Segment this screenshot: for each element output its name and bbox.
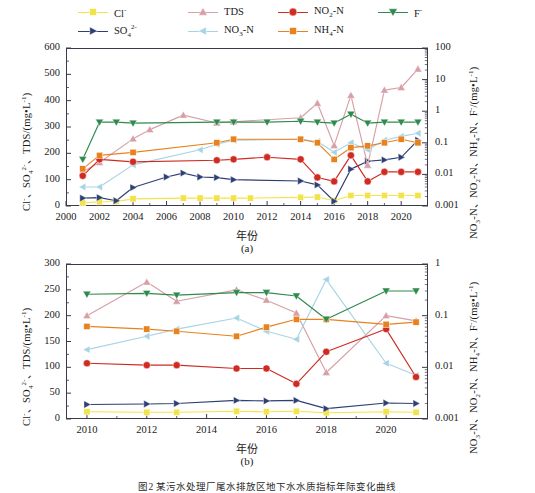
y-tick-label: 600 — [44, 41, 60, 52]
y-tick-label: 500 — [44, 67, 60, 78]
panel-a: Cl-、SO42-、TDS/(mg•L-1) NO3-N、NO2-N、NH4-N… — [0, 0, 535, 250]
x-tick-label: 2004 — [123, 211, 144, 222]
y2-tick-label: 1 — [435, 257, 440, 268]
y-tick-label: 200 — [44, 146, 60, 157]
y-tick-label: 0 — [55, 412, 60, 423]
x-tick-label: 2006 — [156, 211, 177, 222]
series-so42- — [84, 397, 420, 413]
y2-tick-label: 0.01 — [435, 360, 453, 371]
x-tick-label: 2018 — [357, 211, 378, 222]
y2-tick-label: 0.1 — [435, 136, 448, 147]
y-tick-label: 300 — [44, 120, 60, 131]
x-tick-label: 2020 — [391, 211, 412, 222]
x-tick-label: 2018 — [316, 424, 337, 435]
panel-b-label: (b) — [241, 455, 254, 467]
x-tick-label: 2012 — [257, 211, 278, 222]
y2-tick-label: 0.001 — [435, 412, 459, 423]
y-axis-label-b: Cl-、SO42-、TDS/(mg•L-1) — [18, 307, 35, 426]
x-tick-label: 2002 — [89, 211, 110, 222]
y2-tick-label: 10 — [435, 73, 446, 84]
y2-tick-label: 0.1 — [435, 309, 448, 320]
y-tick-label: 0 — [55, 199, 60, 210]
y-axis-label-a: Cl-、SO42-、TDS/(mg•L-1) — [18, 92, 35, 211]
x-tick-label: 2016 — [256, 424, 277, 435]
series-f- — [83, 288, 420, 323]
y2-tick-label: 1 — [435, 104, 440, 115]
x-tick-label: 2014 — [196, 424, 217, 435]
y-tick-label: 100 — [44, 360, 60, 371]
y-tick-label: 200 — [44, 309, 60, 320]
x-tick-label: 2010 — [76, 424, 97, 435]
x-tick-label: 2014 — [290, 211, 311, 222]
x-tick-label: 2020 — [376, 424, 397, 435]
y-tick-label: 50 — [50, 386, 61, 397]
y2-tick-label: 100 — [435, 41, 451, 52]
x-tick-label: 2008 — [190, 211, 211, 222]
series-cl- — [84, 408, 419, 416]
y2-axis-label-b: NO3-N、NO2-N、NH4-N、F-/(mg•L-1) — [465, 281, 482, 454]
x-tick-label: 2000 — [56, 211, 77, 222]
y2-axis-label-a: NO3-N、NO2-N、NH4-N、F-/(mg•L-1) — [465, 66, 482, 239]
y2-tick-label: 0.001 — [435, 199, 459, 210]
y-tick-label: 150 — [44, 335, 60, 346]
x-tick-label: 2012 — [136, 424, 157, 435]
plot-series-b — [0, 250, 535, 487]
series-no2-n — [83, 325, 419, 387]
x-tick-label: 2010 — [223, 211, 244, 222]
panel-b: Cl-、SO42-、TDS/(mg•L-1) NO3-N、NO2-N、NH4-N… — [0, 250, 535, 487]
y2-tick-label: 0.01 — [435, 167, 453, 178]
figure-caption: 图2 某污水处理厂尾水排放区地下水水质指标年际变化曲线 — [138, 479, 395, 493]
series-no3-n — [83, 276, 419, 379]
y-tick-label: 250 — [44, 283, 60, 294]
y-tick-label: 100 — [44, 173, 60, 184]
x-axis-label-a: 年份 — [236, 227, 258, 243]
y-tick-label: 400 — [44, 94, 60, 105]
x-axis-label-b: 年份 — [236, 440, 258, 456]
y-tick-label: 300 — [44, 257, 60, 268]
x-tick-label: 2016 — [324, 211, 345, 222]
